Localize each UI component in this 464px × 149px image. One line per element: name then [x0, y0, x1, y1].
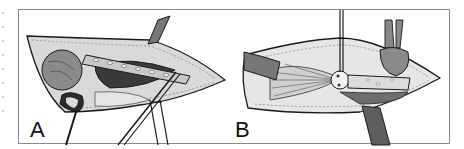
- panel-a-illustration: [27, 16, 225, 145]
- panel-label-a: A: [30, 119, 45, 141]
- surgical-illustration: [0, 0, 464, 149]
- panel-b-illustration: [243, 10, 440, 145]
- panel-label-b: B: [235, 119, 250, 141]
